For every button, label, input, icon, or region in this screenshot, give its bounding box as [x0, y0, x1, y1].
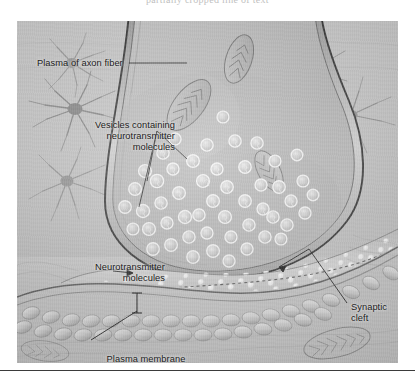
synapse-figure: Plasma of axon fiber Vesicles containing… [17, 21, 398, 363]
glial-cell-left-bottom [29, 147, 105, 221]
label-synaptic-cleft: Synaptic cleft [351, 302, 398, 324]
label-plasma-of-axon-fiber: Plasma of axon fiber [37, 58, 123, 69]
synapse-artwork [17, 21, 398, 363]
label-plasma-membrane-of-postsynaptic-neuron: Plasma membrane of postsynaptic neuron [72, 354, 220, 363]
label-vesicles-containing-neurotransmitter-molecules: Vesicles containing neurotransmitter mol… [35, 120, 175, 154]
page-root: partially cropped line of text [0, 0, 415, 382]
cropped-top-text: partially cropped line of text [0, 0, 415, 6]
figure-canvas: Plasma of axon fiber Vesicles containing… [17, 21, 398, 363]
bottom-horizontal-rule [0, 370, 415, 371]
label-neurotransmitter-molecules: Neurotransmitter molecules [23, 262, 165, 284]
